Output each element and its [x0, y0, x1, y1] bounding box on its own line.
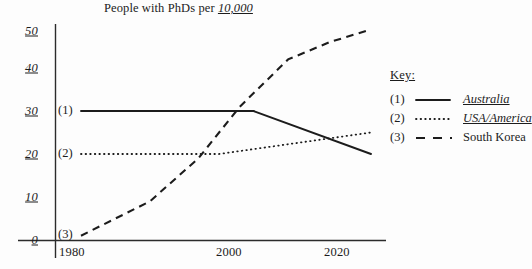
- legend-label-south-korea: South Korea: [463, 130, 526, 145]
- y-tick-40: 40: [4, 61, 38, 76]
- x-tick-2000: 2000: [216, 245, 242, 260]
- legend-index-south-korea: (3): [390, 130, 414, 145]
- x-tick-2020: 2020: [324, 245, 350, 260]
- legend-swatch-solid: [414, 94, 458, 106]
- y-tick-50: 50: [4, 24, 38, 39]
- legend-label-usa: USA/America: [463, 111, 532, 126]
- series-line-usa: [81, 133, 371, 155]
- y-tick-20: 20: [4, 147, 38, 162]
- y-tick-30: 30: [4, 104, 38, 119]
- legend-row-usa: (2) USA/America: [390, 109, 532, 128]
- legend-row-australia: (1) Australia: [390, 90, 532, 109]
- legend-label-australia: Australia: [463, 92, 510, 107]
- series-tag-australia: (1): [58, 103, 73, 118]
- legend-index-australia: (1): [390, 92, 414, 107]
- series-line-south-korea: [81, 29, 371, 235]
- series-tag-usa: (2): [58, 146, 73, 161]
- legend-swatch-dotted: [414, 113, 458, 125]
- y-tick-10: 10: [4, 190, 38, 205]
- legend: Key: (1) Australia (2) USA/America (3): [390, 68, 532, 147]
- legend-title: Key:: [390, 68, 532, 83]
- legend-row-south-korea: (3) South Korea: [390, 128, 532, 147]
- legend-index-usa: (2): [390, 111, 414, 126]
- series-line-australia: [81, 111, 371, 154]
- legend-swatch-dashed: [414, 132, 458, 144]
- y-tick-0: 0: [4, 233, 38, 248]
- series-tag-south-korea: (3): [58, 227, 73, 242]
- x-tick-1980: 1980: [59, 245, 85, 260]
